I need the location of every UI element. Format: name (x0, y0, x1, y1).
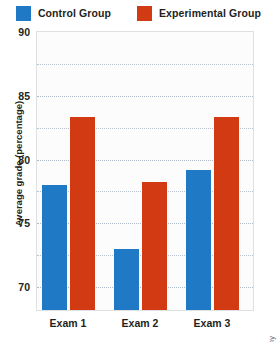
bar-experimental-group-3 (214, 117, 239, 310)
legend-item-experimental: Experimental Group (137, 6, 261, 21)
legend-item-control: Control Group (16, 6, 111, 21)
image-credit: Checklist, Nerthuz/Alamy (267, 336, 276, 342)
x-axis-tick-label: Exam 3 (194, 317, 231, 329)
x-axis-tick-label: Exam 2 (122, 317, 159, 329)
bar-experimental-group-1 (70, 117, 95, 310)
y-axis-tick-label: 70 (18, 281, 30, 293)
legend-swatch-experimental-icon (137, 6, 152, 21)
x-axis-tick-label: Exam 1 (50, 317, 87, 329)
bar-series-layer (37, 32, 253, 310)
y-axis-tick-label: 90 (18, 26, 30, 38)
bar-experimental-group-2 (142, 182, 167, 310)
bar-chart-figure: Control Group Experimental Group Average… (0, 0, 277, 342)
bar-control-group-2 (114, 249, 139, 310)
legend-swatch-control-icon (16, 6, 31, 21)
y-axis-tick-labels: 7075808590 (0, 31, 34, 311)
y-axis-tick-label: 75 (18, 217, 30, 229)
legend-label-control: Control Group (38, 7, 111, 19)
chart-legend: Control Group Experimental Group (0, 0, 277, 26)
y-axis-tick-label: 80 (18, 154, 30, 166)
y-axis-tick-label: 85 (18, 90, 30, 102)
bar-control-group-1 (42, 185, 67, 310)
bar-control-group-3 (186, 170, 211, 310)
x-axis-tick-labels: Exam 1Exam 2Exam 3 (36, 314, 254, 334)
legend-label-experimental: Experimental Group (159, 7, 261, 19)
